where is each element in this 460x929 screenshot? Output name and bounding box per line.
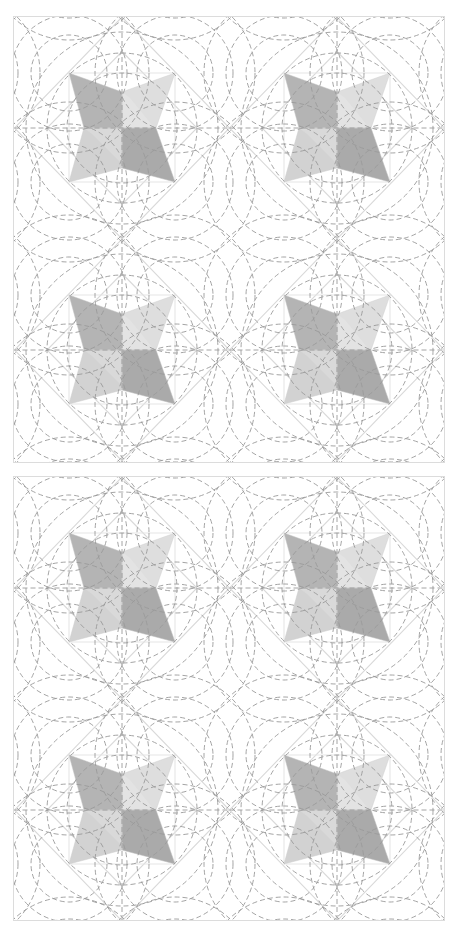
tip-circle: [419, 102, 444, 262]
tip-circle: [14, 806, 18, 920]
tip-circle: [14, 437, 40, 462]
tip-circle: [419, 215, 444, 375]
tip-circle: [419, 437, 444, 462]
star-arm-bottom-right: [337, 588, 390, 642]
tip-circle: [14, 584, 18, 700]
tip-circle: [419, 675, 444, 835]
stars: [69, 533, 390, 864]
tip-circle: [441, 584, 444, 700]
tip-circle: [332, 919, 444, 920]
star-arm-bottom-right: [337, 350, 390, 404]
star-arm-bottom-right: [122, 350, 175, 404]
tip-circle: [95, 897, 255, 920]
tip-circle: [14, 477, 127, 478]
tip-circle: [441, 477, 444, 591]
tip-circle: [441, 806, 444, 920]
tip-circle: [226, 17, 342, 18]
tip-circle: [14, 237, 18, 353]
top-panel-canvas: [14, 17, 444, 462]
tip-circle: [419, 784, 444, 920]
tip-circle: [117, 477, 233, 478]
tip-circle: [14, 17, 127, 18]
tip-circle: [226, 919, 342, 920]
tip-circle: [332, 459, 444, 462]
tip-circle: [14, 477, 18, 591]
tip-circle: [14, 437, 149, 462]
tip-circle: [14, 17, 18, 131]
tip-circle: [332, 477, 444, 478]
tip-circle: [310, 437, 444, 462]
tip-circle: [226, 477, 342, 478]
bottom-panel: [14, 477, 444, 920]
stars: [69, 73, 390, 404]
star-arm-bottom-right: [122, 810, 175, 864]
star-arm-bottom-right: [337, 128, 390, 182]
tip-circle: [14, 346, 18, 462]
tip-circle: [117, 919, 233, 920]
tip-circle: [441, 237, 444, 353]
tip-circle: [14, 124, 18, 240]
tip-circle: [117, 17, 233, 18]
bottom-panel-canvas: [14, 477, 444, 920]
tip-circle: [441, 124, 444, 240]
tip-circle: [14, 919, 127, 920]
top-panel: [14, 17, 444, 462]
tip-circle: [14, 919, 18, 920]
tip-circle: [332, 17, 444, 18]
star-arm-bottom-right: [337, 810, 390, 864]
tip-circle: [419, 562, 444, 722]
star-arm-bottom-right: [122, 128, 175, 182]
star-arm-bottom-right: [122, 588, 175, 642]
tip-circle: [14, 697, 18, 813]
tip-circle: [441, 17, 444, 131]
tip-circle: [441, 697, 444, 813]
tip-circle: [441, 346, 444, 462]
